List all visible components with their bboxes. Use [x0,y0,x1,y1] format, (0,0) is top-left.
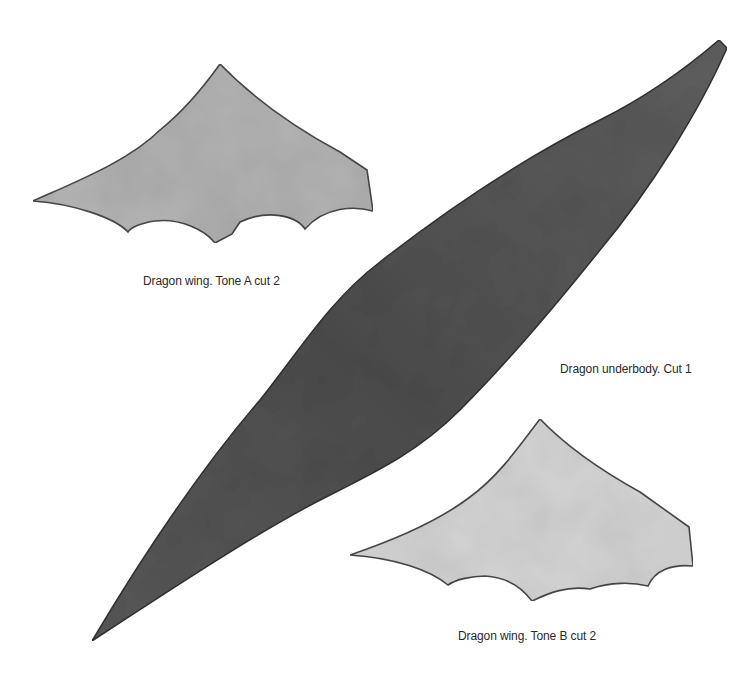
cutout-artwork [0,0,738,678]
underbody-label: Dragon underbody. Cut 1 [560,362,692,376]
template-page: Dragon wing. Tone A cut 2 Dragon underbo… [0,0,738,678]
wing-a-shape [33,64,373,243]
wing-b-label: Dragon wing. Tone B cut 2 [458,629,596,643]
wing-a-label: Dragon wing. Tone A cut 2 [143,274,280,288]
